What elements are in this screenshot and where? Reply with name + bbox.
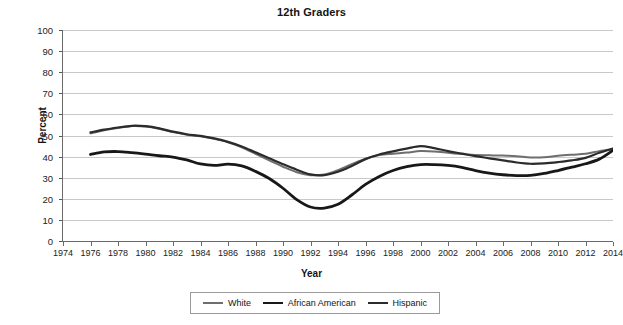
x-tick-label: 1998 bbox=[383, 248, 403, 258]
legend-label: White bbox=[228, 298, 251, 308]
x-tick-mark bbox=[311, 242, 312, 246]
chart-title: 12th Graders bbox=[0, 6, 623, 18]
x-tick-mark bbox=[558, 242, 559, 246]
x-tick-label: 1974 bbox=[53, 248, 73, 258]
legend-item[interactable]: White bbox=[203, 298, 251, 308]
x-tick-label: 1988 bbox=[245, 248, 265, 258]
y-tick-label: 10 bbox=[27, 214, 53, 225]
x-tick-label: 1978 bbox=[108, 248, 128, 258]
x-tick-mark bbox=[366, 242, 367, 246]
x-tick-mark bbox=[421, 242, 422, 246]
x-tick-label: 1990 bbox=[273, 248, 293, 258]
y-tick-label: 80 bbox=[27, 67, 53, 78]
x-tick-label: 1986 bbox=[218, 248, 238, 258]
x-tick-mark bbox=[228, 242, 229, 246]
chart-legend: WhiteAfrican AmericanHispanic bbox=[190, 292, 440, 314]
x-tick-label: 1980 bbox=[135, 248, 155, 258]
x-tick-mark bbox=[256, 242, 257, 246]
x-tick-label: 2006 bbox=[493, 248, 513, 258]
x-tick-mark bbox=[91, 242, 92, 246]
x-tick-label: 1996 bbox=[355, 248, 375, 258]
x-axis-line bbox=[62, 241, 613, 242]
y-tick-label: 0 bbox=[27, 236, 53, 247]
x-tick-mark bbox=[338, 242, 339, 246]
x-tick-mark bbox=[476, 242, 477, 246]
legend-swatch-line-icon bbox=[263, 302, 283, 304]
legend-swatch-line-icon bbox=[368, 302, 388, 304]
x-tick-label: 1976 bbox=[80, 248, 100, 258]
series-line bbox=[91, 126, 614, 175]
y-tick-label: 20 bbox=[27, 193, 53, 204]
legend-label: African American bbox=[288, 298, 356, 308]
y-tick-label: 90 bbox=[27, 46, 53, 57]
x-tick-label: 2002 bbox=[438, 248, 458, 258]
x-tick-label: 2000 bbox=[410, 248, 430, 258]
x-tick-mark bbox=[393, 242, 394, 246]
y-tick-label: 50 bbox=[27, 130, 53, 141]
x-tick-label: 1994 bbox=[328, 248, 348, 258]
x-tick-mark bbox=[173, 242, 174, 246]
x-tick-label: 2010 bbox=[548, 248, 568, 258]
series-lines bbox=[63, 30, 613, 241]
y-tick-label: 60 bbox=[27, 109, 53, 120]
x-tick-mark bbox=[448, 242, 449, 246]
legend-label: Hispanic bbox=[393, 298, 428, 308]
series-line bbox=[91, 150, 614, 208]
x-tick-mark bbox=[503, 242, 504, 246]
x-tick-mark bbox=[531, 242, 532, 246]
x-tick-label: 1982 bbox=[163, 248, 183, 258]
x-tick-label: 2012 bbox=[575, 248, 595, 258]
x-tick-mark bbox=[146, 242, 147, 246]
x-tick-mark bbox=[613, 242, 614, 246]
x-tick-mark bbox=[118, 242, 119, 246]
y-tick-label: 100 bbox=[27, 25, 53, 36]
legend-swatch-line-icon bbox=[203, 302, 223, 304]
plot-area bbox=[63, 30, 613, 241]
y-tick-label: 30 bbox=[27, 172, 53, 183]
series-line bbox=[91, 126, 614, 176]
x-tick-label: 2004 bbox=[465, 248, 485, 258]
x-tick-mark bbox=[586, 242, 587, 246]
x-tick-label: 2014 bbox=[603, 248, 623, 258]
x-tick-label: 1984 bbox=[190, 248, 210, 258]
x-tick-mark bbox=[63, 242, 64, 246]
y-tick-label: 70 bbox=[27, 88, 53, 99]
y-tick-label: 40 bbox=[27, 151, 53, 162]
x-tick-label: 1992 bbox=[300, 248, 320, 258]
x-tick-mark bbox=[283, 242, 284, 246]
legend-item[interactable]: Hispanic bbox=[368, 298, 428, 308]
chart-container: 12th Graders Percent Year 01020304050607… bbox=[0, 0, 623, 325]
legend-item[interactable]: African American bbox=[263, 298, 356, 308]
x-axis-label: Year bbox=[0, 268, 623, 279]
x-tick-label: 2008 bbox=[520, 248, 540, 258]
x-tick-mark bbox=[201, 242, 202, 246]
